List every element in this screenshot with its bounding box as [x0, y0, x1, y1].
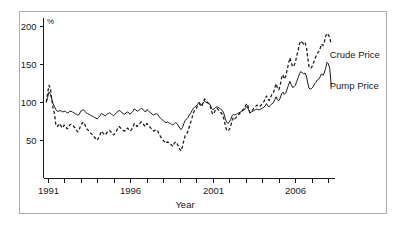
chart-screenshot: 50100150200 1991199620012006 % Crude Pri…	[0, 0, 407, 231]
legend-label-pump-price: Pump Price	[330, 80, 379, 91]
y-axis-unit-label: %	[47, 17, 54, 26]
legend-label-crude-price: Crude Price	[330, 49, 380, 60]
y-tick-label-100: 100	[21, 97, 37, 108]
y-axis-ticks	[40, 27, 44, 141]
x-tick-label-2001: 2001	[203, 185, 224, 196]
series-inline-legend: Crude PricePump Price	[330, 49, 380, 91]
y-tick-label-50: 50	[26, 135, 37, 146]
y-tick-label-200: 200	[21, 21, 37, 32]
x-axis-ticks	[49, 179, 329, 183]
x-tick-label-1991: 1991	[38, 185, 59, 196]
series-line-pump-price	[46, 62, 331, 129]
x-axis-title: Year	[175, 199, 194, 210]
oil-price-index-line-chart: 50100150200 1991199620012006 % Crude Pri…	[0, 0, 407, 231]
x-axis-tick-labels: 1991199620012006	[38, 185, 306, 196]
x-tick-label-1996: 1996	[120, 185, 141, 196]
series-line-crude-price	[46, 33, 331, 151]
x-tick-label-2006: 2006	[285, 185, 306, 196]
y-tick-label-150: 150	[21, 59, 37, 70]
y-axis-tick-labels: 50100150200	[21, 21, 37, 146]
